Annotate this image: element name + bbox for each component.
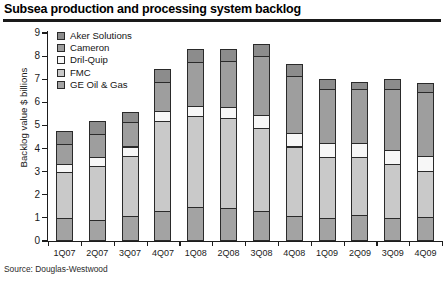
bar-segment[interactable]	[319, 89, 336, 144]
bar-segment[interactable]	[417, 83, 434, 93]
bar-segment[interactable]	[187, 62, 204, 107]
x-axis-tick	[81, 241, 82, 246]
bar-segment[interactable]	[89, 157, 106, 167]
bar-segment[interactable]	[384, 79, 401, 89]
bar-column[interactable]	[286, 65, 303, 241]
bar-segment[interactable]	[417, 171, 434, 218]
bar-segment[interactable]	[187, 106, 204, 117]
bar-segment[interactable]	[89, 220, 106, 241]
bar-column[interactable]	[319, 80, 336, 241]
x-axis-tick-label: 1Q07	[46, 248, 82, 258]
bar-segment[interactable]	[417, 217, 434, 241]
legend-item[interactable]: GE Oil & Gas	[57, 80, 132, 90]
bar-segment[interactable]	[56, 164, 73, 173]
bar-segment[interactable]	[122, 156, 139, 217]
bar-segment[interactable]	[417, 156, 434, 172]
x-axis-tick	[442, 241, 443, 246]
bar-segment[interactable]	[154, 111, 171, 122]
bar-segment[interactable]	[122, 147, 139, 157]
legend-item[interactable]: FMC	[57, 68, 132, 78]
bar-segment[interactable]	[154, 82, 171, 112]
bar-segment[interactable]	[351, 215, 368, 241]
bar-segment[interactable]	[286, 76, 303, 134]
legend-item[interactable]: Cameron	[57, 43, 132, 53]
y-axis-tick-label: 0	[16, 236, 40, 246]
bar-column[interactable]	[384, 80, 401, 241]
bar-segment[interactable]	[384, 218, 401, 241]
bar-column[interactable]	[187, 50, 204, 241]
bar-segment[interactable]	[220, 118, 237, 209]
bar-column[interactable]	[253, 45, 270, 241]
bar-segment[interactable]	[384, 164, 401, 219]
chart-container: Subsea production and processing system …	[0, 0, 444, 288]
bar-column[interactable]	[56, 132, 73, 241]
bar-segment[interactable]	[122, 122, 139, 147]
x-axis-tick	[376, 241, 377, 246]
bar-segment[interactable]	[253, 44, 270, 58]
bar-segment[interactable]	[154, 211, 171, 241]
x-axis-tick	[311, 241, 312, 246]
x-axis-tick-label: 1Q09	[309, 248, 345, 258]
bar-segment[interactable]	[56, 218, 73, 241]
bar-segment[interactable]	[154, 121, 171, 212]
x-axis-tick-label: 2Q07	[79, 248, 115, 258]
x-axis-tick-label: 3Q09	[375, 248, 411, 258]
y-axis-line	[47, 31, 48, 242]
y-axis-tick	[42, 102, 48, 103]
bar-segment[interactable]	[351, 143, 368, 158]
bar-segment[interactable]	[220, 208, 237, 241]
bar-segment[interactable]	[220, 107, 237, 118]
x-axis-tick-label: 2Q09	[342, 248, 378, 258]
bar-segment[interactable]	[286, 216, 303, 241]
bar-segment[interactable]	[253, 128, 270, 212]
bar-segment[interactable]	[286, 147, 303, 217]
bar-segment[interactable]	[220, 49, 237, 61]
bar-segment[interactable]	[351, 82, 368, 90]
legend-item[interactable]: Aker Solutions	[57, 31, 132, 41]
bar-column[interactable]	[417, 84, 434, 241]
bar-segment[interactable]	[351, 89, 368, 144]
bar-segment[interactable]	[89, 134, 106, 158]
bar-segment[interactable]	[319, 218, 336, 241]
bar-segment[interactable]	[187, 116, 204, 207]
x-axis-tick-label: 1Q08	[178, 248, 214, 258]
y-axis-tick	[42, 148, 48, 149]
bar-segment[interactable]	[351, 157, 368, 216]
x-axis-tick	[179, 241, 180, 246]
bar-column[interactable]	[154, 70, 171, 241]
bar-column[interactable]	[351, 83, 368, 241]
bar-segment[interactable]	[187, 49, 204, 63]
legend-item[interactable]: Dril-Quip	[57, 55, 132, 65]
bar-segment[interactable]	[253, 115, 270, 129]
bar-segment[interactable]	[319, 143, 336, 158]
bar-segment[interactable]	[286, 64, 303, 76]
source-note: Source: Douglas-Westwood	[4, 264, 108, 274]
bar-segment[interactable]	[154, 69, 171, 83]
bar-segment[interactable]	[122, 216, 139, 241]
bar-segment[interactable]	[384, 150, 401, 165]
y-axis-tick-label: 2	[16, 190, 40, 200]
x-axis-tick-label: 2Q08	[211, 248, 247, 258]
bar-column[interactable]	[122, 113, 139, 241]
bar-segment[interactable]	[384, 89, 401, 151]
bar-column[interactable]	[220, 50, 237, 241]
bar-segment[interactable]	[89, 166, 106, 221]
bar-segment[interactable]	[220, 61, 237, 108]
bar-segment[interactable]	[56, 172, 73, 219]
y-axis-tick	[42, 217, 48, 218]
bar-segment[interactable]	[56, 131, 73, 145]
y-axis-tick	[42, 56, 48, 57]
bar-segment[interactable]	[187, 207, 204, 241]
bar-segment[interactable]	[319, 157, 336, 219]
y-axis-tick-label: 8	[16, 51, 40, 61]
bar-segment[interactable]	[417, 92, 434, 156]
bar-column[interactable]	[89, 122, 106, 241]
bar-segment[interactable]	[253, 56, 270, 116]
bar-segment[interactable]	[122, 112, 139, 123]
bar-segment[interactable]	[286, 133, 303, 148]
bar-segment[interactable]	[89, 121, 106, 135]
bar-segment[interactable]	[319, 79, 336, 89]
bar-segment[interactable]	[56, 144, 73, 165]
legend-item-label: GE Oil & Gas	[70, 80, 128, 90]
bar-segment[interactable]	[253, 211, 270, 241]
